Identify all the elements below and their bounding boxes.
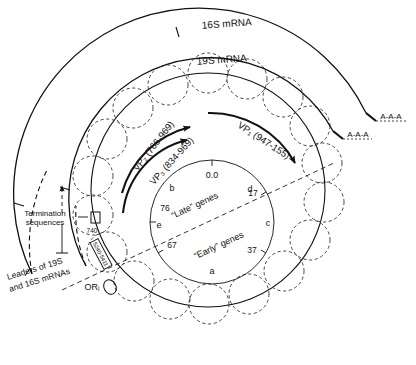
- figure-canvas: 0.0 b d c e a 76 17 37 67 “Late” genes “…: [0, 0, 416, 365]
- nucleosome: [87, 119, 127, 159]
- nucleosome: [150, 279, 190, 319]
- mrna-16s-polya-stem: [366, 113, 376, 121]
- map-tick-label-17: 17: [248, 188, 258, 198]
- mrna-16s-tick: [176, 27, 179, 37]
- origin-label: ORᵢ: [85, 282, 100, 292]
- nucleosome: [264, 251, 304, 291]
- nucleosome: [290, 220, 330, 260]
- nucleosome: [148, 65, 188, 105]
- nucleosome: [290, 106, 330, 146]
- origin-marker: [101, 278, 119, 297]
- map-tick-17: [261, 192, 266, 195]
- termination-label-line2: sequences: [26, 218, 65, 227]
- nucleosome: [263, 77, 303, 117]
- termination-label-line1: Termination: [24, 209, 65, 218]
- mrna-16s-label: 16S mRNA: [201, 16, 252, 30]
- mrna-16s-polya-label: A-A-A: [380, 112, 402, 121]
- mrna-19s-group: [60, 58, 372, 266]
- map-tick-label-76: 76: [160, 203, 170, 213]
- fragment-label-a: a: [209, 266, 214, 276]
- termination-coordinate: 740: [87, 227, 98, 234]
- mrna-19s-polya-label: A-A-A: [347, 130, 369, 139]
- map-tick-label-37: 37: [247, 245, 257, 255]
- mrna-16s-leader-tick: [14, 203, 24, 206]
- late-genes-label: “Late” genes: [170, 190, 220, 221]
- nucleosome: [73, 156, 113, 196]
- mrna-19s-polya-stem: [333, 131, 343, 139]
- fragment-label-e: e: [156, 220, 161, 230]
- fragment-label-b: b: [169, 183, 174, 193]
- nucleosome: [113, 88, 153, 128]
- early-genes-label: “Early” genes: [192, 229, 245, 261]
- map-tick-37: [261, 250, 266, 253]
- dna-circle: [91, 73, 325, 307]
- nucleosome: [87, 232, 127, 272]
- nucleosome: [227, 59, 267, 99]
- fragment-label-c: c: [266, 218, 271, 228]
- nucleosome: [189, 284, 229, 324]
- mrna-16s-group: [14, 8, 406, 274]
- map-tick-67: [158, 250, 163, 253]
- vp1-label: VP₁ (947-155): [236, 119, 292, 161]
- genome-diagram-svg: 0.0 b d c e a 76 17 37 67 “Late” genes “…: [0, 0, 416, 365]
- map-label-zero: 0.0: [206, 170, 219, 180]
- map-tick-label-67: 67: [167, 240, 177, 250]
- mrna-19s-label: 19S mRNA: [196, 52, 247, 66]
- dna-circle-group: [91, 73, 325, 307]
